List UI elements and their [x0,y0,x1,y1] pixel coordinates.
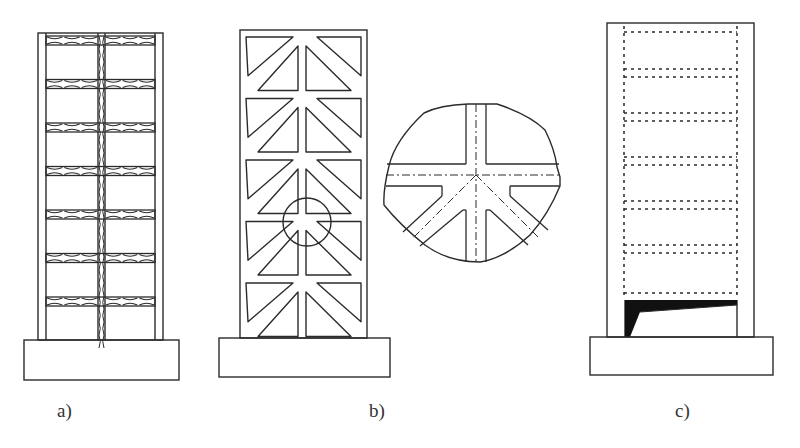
panel-b-wall [240,30,367,338]
panel-a-spine-pattern [99,36,104,348]
panel-c-crack-wedge [625,300,737,337]
detail-member-edges [386,104,560,262]
panel-b-outer-wall [240,30,367,338]
panel-c-dotted-frame [624,26,737,298]
diagram-svg [0,0,800,448]
panel-b-foundation [219,338,390,377]
panel-c-outer-wall [607,23,754,337]
detail-centerlines [386,104,560,262]
panel-a-label: a) [57,400,72,422]
panel-c-foundation [590,337,773,375]
figure-canvas: a) b) c) [0,0,800,448]
panel-c-wall [607,23,754,337]
panel-b-detail-view [384,104,560,262]
panel-b-triangular-openings [246,37,361,337]
panel-c-label: c) [675,400,690,422]
panel-b-label: b) [369,400,385,422]
panel-a-foundation [24,340,179,380]
detail-boundary [384,104,560,262]
